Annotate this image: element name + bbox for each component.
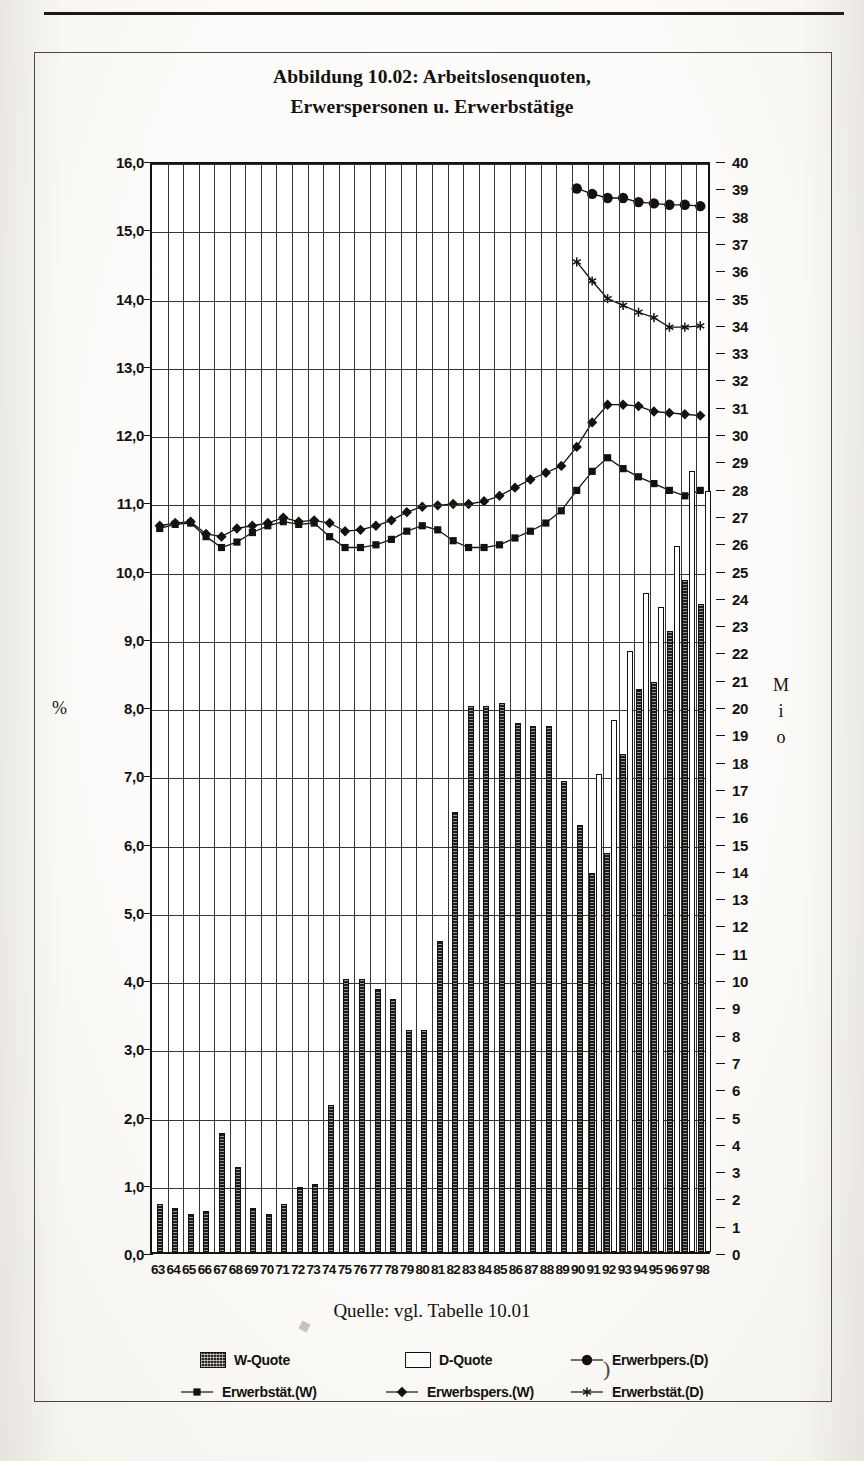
- series-marker-square: [480, 544, 487, 551]
- series-marker-square: [650, 480, 657, 487]
- right-axis-tick-label: 30: [732, 427, 748, 444]
- series-marker-square: [311, 519, 318, 526]
- gridline-horizontal: [152, 437, 708, 438]
- legend-item[interactable]: Erwerbstät.(D): [570, 1384, 703, 1400]
- left-axis-tick-label: 12,0: [116, 427, 144, 444]
- x-axis-tick-label: 86: [509, 1262, 523, 1277]
- legend-item[interactable]: Erwerbstät.(W): [180, 1384, 317, 1400]
- bar-w-quote: [421, 1030, 427, 1252]
- x-axis-tick-label: 83: [462, 1262, 476, 1277]
- bar-d-quote: [627, 651, 633, 1252]
- right-axis-tick-mark: [716, 299, 725, 300]
- chart-legend: W-QuoteD-QuoteErwerbpers.(D)Erwerbstät.(…: [150, 1352, 750, 1414]
- right-axis-tick-mark: [716, 735, 725, 736]
- gridline-vertical: [199, 164, 200, 1252]
- right-axis-tick-label: 39: [732, 181, 748, 198]
- series-marker-diamond: [340, 526, 350, 536]
- right-axis-tick-mark: [716, 1036, 725, 1037]
- series-marker-square: [511, 534, 518, 541]
- right-axis-tick-mark: [716, 244, 725, 245]
- gridline-horizontal: [152, 301, 708, 302]
- left-axis-tick-label: 3,0: [124, 1041, 144, 1058]
- left-axis-tick-label: 4,0: [124, 973, 144, 990]
- bar-w-quote: [281, 1204, 287, 1252]
- gridline-vertical: [323, 164, 324, 1252]
- right-axis-tick-mark: [716, 708, 725, 709]
- bar-d-quote: [643, 593, 649, 1252]
- gridline-vertical: [556, 164, 557, 1252]
- title-line-2: Erwerspersonen u. Erwerbstätige: [34, 92, 830, 122]
- right-axis-tick-label: 22: [732, 645, 748, 662]
- gridline-vertical: [432, 164, 433, 1252]
- bar-w-quote: [172, 1208, 178, 1252]
- series-marker-square: [233, 538, 240, 545]
- legend-item[interactable]: D-Quote: [405, 1352, 492, 1368]
- x-axis-tick-label: 73: [307, 1262, 321, 1277]
- legend-item[interactable]: W-Quote: [200, 1352, 290, 1368]
- series-marker-square: [527, 528, 534, 535]
- right-axis-tick-label: 18: [732, 754, 748, 771]
- right-axis-tick-mark: [716, 517, 725, 518]
- legend-item-label: Erwerbstät.(W): [222, 1384, 317, 1400]
- legend-item[interactable]: Erwerbspers.(W): [385, 1384, 534, 1400]
- right-axis-tick-mark: [716, 1145, 725, 1146]
- gridline-vertical: [214, 164, 215, 1252]
- x-axis-tick-label: 91: [587, 1262, 601, 1277]
- bar-w-quote: [561, 781, 567, 1252]
- legend-item[interactable]: Erwerbpers.(D): [570, 1352, 708, 1368]
- gridline-vertical: [308, 164, 309, 1252]
- right-axis-tick-label: 28: [732, 481, 748, 498]
- x-axis-tick-label: 71: [275, 1262, 289, 1277]
- gridline-vertical: [448, 164, 449, 1252]
- series-marker-square: [450, 537, 457, 544]
- right-axis-tick-mark: [716, 954, 725, 955]
- legend-swatch-white: [405, 1352, 431, 1368]
- right-axis-tick-label: 29: [732, 454, 748, 471]
- plot-area: [150, 162, 710, 1254]
- x-axis-tick-label: 72: [291, 1262, 305, 1277]
- x-axis-tick-label: 67: [213, 1262, 227, 1277]
- bar-w-quote: [406, 1030, 412, 1252]
- series-marker-diamond: [232, 523, 242, 533]
- series-marker-square: [249, 529, 256, 536]
- bar-w-quote: [589, 873, 595, 1252]
- x-axis-tick-label: 98: [695, 1262, 709, 1277]
- x-axis-tick-label: 92: [602, 1262, 616, 1277]
- bar-w-quote: [667, 631, 673, 1252]
- bar-w-quote: [219, 1133, 225, 1252]
- gridline-vertical: [385, 164, 386, 1252]
- series-marker-square: [202, 533, 209, 540]
- series-marker-square: [419, 522, 426, 529]
- bar-w-quote: [577, 825, 583, 1252]
- series-marker-diamond: [510, 482, 520, 492]
- bar-w-quote: [359, 979, 365, 1252]
- series-marker-diamond: [402, 507, 412, 517]
- series-marker-square: [264, 522, 271, 529]
- right-axis-tick-label: 34: [732, 317, 748, 334]
- gridline-vertical: [463, 164, 464, 1252]
- gridline-vertical: [370, 164, 371, 1252]
- legend-marker-line-filled-circle: [570, 1353, 604, 1367]
- page-title: Abbildung 10.02: Arbeitslosenquoten, Erw…: [34, 62, 830, 122]
- series-marker-square: [280, 518, 287, 525]
- left-axis-tick-label: 7,0: [124, 768, 144, 785]
- left-axis-tick-mark: [144, 1254, 153, 1255]
- series-marker-square: [681, 492, 688, 499]
- legend-marker-line-diamond: [385, 1385, 419, 1399]
- gridline-horizontal: [152, 574, 708, 575]
- right-axis-tick-label: 19: [732, 727, 748, 744]
- bar-d-quote: [705, 491, 711, 1252]
- right-axis-tick-label: 26: [732, 536, 748, 553]
- right-axis-tick-mark: [716, 899, 725, 900]
- series-marker-diamond: [463, 499, 473, 509]
- bar-d-quote: [596, 774, 602, 1252]
- series-marker-diamond: [324, 518, 334, 528]
- right-axis-tick-label: 23: [732, 618, 748, 635]
- series-marker-diamond: [541, 468, 551, 478]
- right-axis-tick-mark: [716, 462, 725, 463]
- right-axis-tick-mark: [716, 271, 725, 272]
- series-marker-square: [326, 533, 333, 540]
- right-axis-tick-label: 4: [732, 1136, 740, 1153]
- right-axis-tick-mark: [716, 353, 725, 354]
- right-axis-tick-mark: [716, 981, 725, 982]
